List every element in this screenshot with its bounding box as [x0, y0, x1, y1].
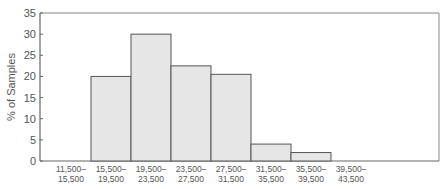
- x-tick-label: 43,500: [338, 174, 364, 184]
- y-tick-label: 5: [30, 134, 36, 146]
- y-axis-title: % of Samples: [5, 53, 17, 121]
- x-tick-label: 19,500–: [136, 164, 167, 174]
- y-tick-label: 20: [24, 70, 36, 82]
- x-tick-label: 35,500–: [296, 164, 327, 174]
- x-axis: 11,500–15,50015,500–19,50019,500–23,5002…: [56, 164, 367, 184]
- y-tick-label: 30: [24, 28, 36, 40]
- x-tick-label: 15,500–: [96, 164, 127, 174]
- x-tick-label: 39,500–: [336, 164, 367, 174]
- histogram-bar: [211, 74, 251, 161]
- x-tick-label: 15,500: [58, 174, 84, 184]
- histogram-bar: [91, 76, 131, 161]
- x-tick-label: 39,500: [298, 174, 324, 184]
- x-tick-label: 35,500: [258, 174, 284, 184]
- y-tick-label: 15: [24, 92, 36, 104]
- y-tick-label: 35: [24, 7, 36, 19]
- x-tick-label: 23,500: [138, 174, 164, 184]
- x-tick-label: 27,500: [178, 174, 204, 184]
- bars: [91, 34, 331, 161]
- x-tick-label: 27,500–: [216, 164, 247, 174]
- histogram-chart: 05101520253035 11,500–15,50015,500–19,50…: [0, 0, 444, 189]
- y-tick-label: 25: [24, 49, 36, 61]
- x-tick-label: 23,500–: [176, 164, 207, 174]
- x-tick-label: 11,500–: [56, 164, 86, 174]
- y-tick-label: 10: [24, 113, 36, 125]
- y-tick-label: 0: [30, 155, 36, 167]
- histogram-bar: [251, 144, 291, 161]
- histogram-bar: [291, 153, 331, 161]
- x-tick-label: 19,500: [98, 174, 124, 184]
- x-tick-label: 31,500–: [256, 164, 287, 174]
- histogram-bar: [131, 34, 171, 161]
- x-tick-label: 31,500: [218, 174, 244, 184]
- histogram-bar: [171, 66, 211, 161]
